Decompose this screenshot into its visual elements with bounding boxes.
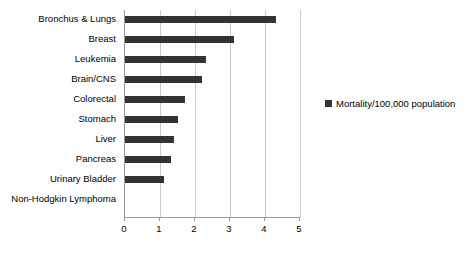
category-label: Urinary Bladder [0,174,116,184]
legend-entry-label: Mortality/100,000 population [336,98,455,109]
x-axis-tick-label: 3 [226,223,231,234]
category-axis-labels: Bronchus & Lungs Breast Leukemia Brain/C… [0,10,119,217]
bar [125,56,206,63]
category-label: Pancreas [0,154,116,164]
bar [125,76,202,83]
category-label: Colorectal [0,94,116,104]
x-axis-tick-label: 5 [296,223,301,234]
category-label: Breast [0,34,116,44]
x-axis-tick [264,217,265,221]
category-label: Liver [0,134,116,144]
chart-legend: Mortality/100,000 population [325,98,455,109]
bar [125,156,171,163]
x-axis-tick-label: 4 [261,223,266,234]
square-marker-icon [325,100,332,107]
category-label: Stomach [0,114,116,124]
gridline [265,10,266,217]
bar-chart: Bronchus & Lungs Breast Leukemia Brain/C… [0,0,468,259]
category-label: Brain/CNS [0,74,116,84]
x-axis-tick [194,217,195,221]
x-axis-tick-label: 0 [121,223,126,234]
x-axis-tick-label: 2 [191,223,196,234]
bar [125,176,164,183]
plot-area [124,10,299,217]
category-label: Leukemia [0,54,116,64]
x-axis-tick [229,217,230,221]
gridline [300,10,301,217]
x-axis-tick-label: 1 [156,223,161,234]
category-label: Non-Hodgkin Lymphoma [0,194,116,204]
x-axis-tick [159,217,160,221]
bar [125,36,234,43]
x-axis-tick [299,217,300,221]
bar [125,136,174,143]
bar [125,116,178,123]
bar [125,16,276,23]
x-axis-line [124,217,300,218]
x-axis-tick [124,217,125,221]
bar [125,96,185,103]
category-label: Bronchus & Lungs [0,14,116,24]
